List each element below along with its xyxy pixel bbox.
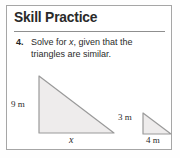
- page-title: Skill Practice: [14, 8, 97, 26]
- similar-triangles-figure: 9 m x 3 m 4 m: [7, 58, 173, 150]
- problem-statement: Solve for x, given that the triangles ar…: [31, 37, 166, 60]
- large-triangle-shape: [39, 76, 114, 133]
- panel-header: Skill Practice: [7, 6, 171, 35]
- page-canvas: Skill Practice 4. Solve for x, given tha…: [0, 0, 180, 158]
- small-triangle-shape: [143, 113, 171, 134]
- large-triangle-base-label: x: [69, 135, 73, 145]
- small-triangle-height-label: 3 m: [118, 112, 132, 122]
- problem-text-before: Solve for: [31, 37, 69, 47]
- large-triangle-height-label: 9 m: [11, 99, 25, 109]
- title-divider: [14, 31, 165, 32]
- small-triangle-base-label: 4 m: [146, 135, 160, 145]
- skill-practice-panel: Skill Practice 4. Solve for x, given tha…: [6, 5, 172, 150]
- problem-number: 4.: [16, 37, 24, 48]
